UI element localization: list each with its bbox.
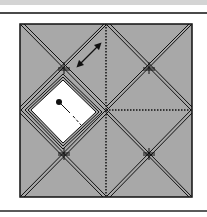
origami-diagram [0, 0, 207, 217]
